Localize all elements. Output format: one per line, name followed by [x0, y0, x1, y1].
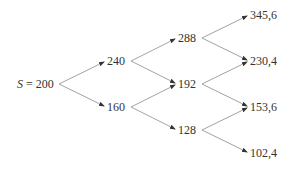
root-equals: = [23, 77, 36, 91]
edge-288-345 [202, 16, 247, 38]
node-level3-uuu: 345,6 [250, 8, 277, 22]
edge-128-153 [202, 108, 247, 130]
node-level3-uud: 230,4 [250, 54, 277, 68]
edge-288-230 [202, 38, 247, 60]
edge-240-288 [131, 39, 175, 61]
node-level3-udd: 153,6 [250, 100, 277, 114]
node-level2-uu: 288 [178, 31, 196, 45]
edge-200-160 [59, 84, 104, 106]
node-level1-up: 240 [107, 54, 125, 68]
edge-128-102 [202, 130, 247, 152]
binomial-tree-diagram: S = 200 240 160 288 192 128 345,6 230,4 … [0, 0, 294, 170]
edge-160-128 [131, 107, 175, 129]
node-level1-down: 160 [107, 100, 125, 114]
node-level2-ud: 192 [178, 77, 196, 91]
edge-192-153 [202, 84, 247, 106]
edge-192-230 [202, 62, 247, 84]
edge-160-192 [131, 85, 175, 107]
root-node: S = 200 [17, 77, 54, 91]
root-value: 200 [36, 77, 54, 91]
edge-200-240 [59, 62, 104, 84]
node-level2-dd: 128 [178, 123, 196, 137]
edge-240-192 [131, 61, 175, 83]
node-level3-ddd: 102,4 [250, 146, 277, 160]
